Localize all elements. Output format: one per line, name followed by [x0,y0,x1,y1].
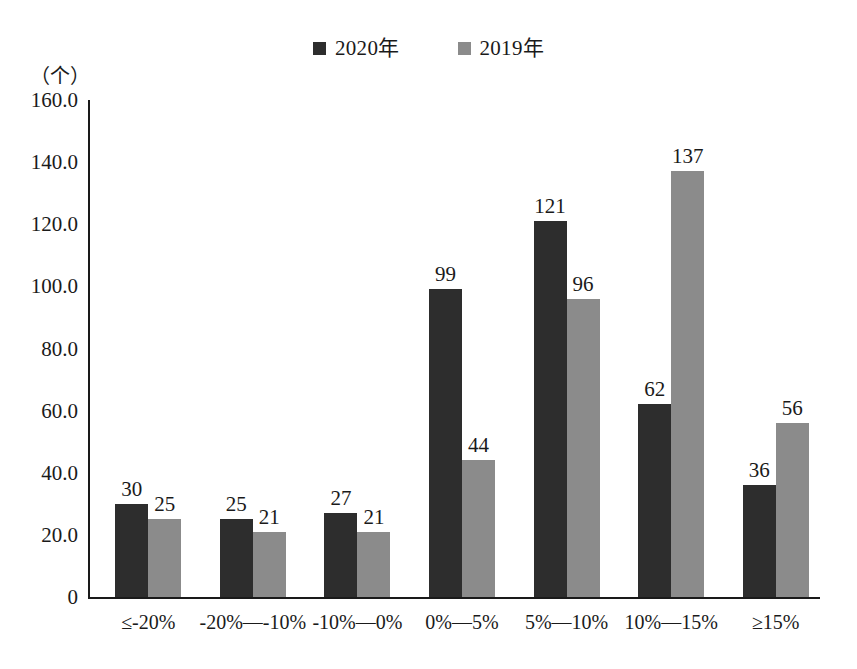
square-marker-icon [458,42,471,55]
bar-value-label: 30 [121,479,142,500]
x-axis-line [88,597,820,599]
y-tick-label: 20.0 [41,522,78,547]
x-tick-label: -10%—0% [312,611,402,634]
y-tick-label: 0 [68,585,79,610]
bar-value-label: 99 [435,264,456,285]
legend-label-2020: 2020年 [335,38,400,59]
bar-2020年--20%—-10%: 25 [220,519,253,597]
x-tick-label: 0%—5% [425,611,498,634]
bar-2019年--10%—0%: 21 [357,532,390,597]
y-tick-label: 120.0 [31,212,78,237]
square-marker-icon [313,42,326,55]
legend-item-2020: 2020年 [313,38,400,59]
bar-value-label: 121 [534,196,566,217]
bar-value-label: 21 [363,507,384,528]
bar-value-label: 25 [226,494,247,515]
x-tick-label: 5%—10% [525,611,608,634]
y-tick-label: 140.0 [31,150,78,175]
bar-value-label: 27 [330,488,351,509]
bar-value-label: 25 [154,494,175,515]
bar-value-label: 44 [468,435,489,456]
bar-2020年--10%—0%: 27 [324,513,357,597]
bar-2019年-≤-20%: 25 [148,519,181,597]
bar-value-label: 96 [573,274,594,295]
bar-value-label: 21 [259,507,280,528]
plot-area: 020.040.060.080.0100.0120.0140.0160.0 30… [88,100,820,597]
legend-label-2019: 2019年 [480,38,545,59]
bar-2020年-≤-20%: 30 [115,504,148,597]
bar-value-label: 62 [644,379,665,400]
bar-chart: 2020年 2019年 （个） 020.040.060.080.0100.012… [0,0,857,669]
y-tick-label: 60.0 [41,398,78,423]
bar-2019年-5%—10%: 96 [567,299,600,597]
legend-item-2019: 2019年 [458,38,545,59]
bar-2019年-10%—15%: 137 [671,171,704,597]
x-tick-label: -20%—-10% [200,611,307,634]
bar-2019年-0%—5%: 44 [462,460,495,597]
chart-legend: 2020年 2019年 [0,38,857,59]
y-axis-unit-caption: （个） [30,60,90,89]
bar-2020年-0%—5%: 99 [429,289,462,597]
y-axis-line [88,100,90,597]
bar-2019年--20%—-10%: 21 [253,532,286,597]
bar-2020年-5%—10%: 121 [534,221,567,597]
bar-value-label: 56 [782,398,803,419]
bar-2019年-≥15%: 56 [776,423,809,597]
bar-2020年-≥15%: 36 [743,485,776,597]
bar-2020年-10%—15%: 62 [638,404,671,597]
y-tick-label: 100.0 [31,274,78,299]
bar-value-label: 137 [672,146,704,167]
y-tick-label: 40.0 [41,460,78,485]
bar-value-label: 36 [749,460,770,481]
y-tick-label: 160.0 [31,88,78,113]
y-tick-label: 80.0 [41,336,78,361]
x-tick-label: 10%—15% [624,611,717,634]
x-tick-label: ≥15% [752,611,800,634]
x-tick-label: ≤-20% [121,611,175,634]
